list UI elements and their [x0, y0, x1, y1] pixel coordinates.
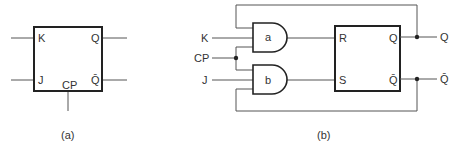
k-input-label: K — [201, 32, 209, 44]
j-input-label: J — [202, 74, 208, 86]
figure-a: K J CP Q Q̄ (a) — [11, 27, 127, 141]
caption-b: (b) — [317, 129, 330, 141]
r-label: R — [339, 32, 347, 44]
cp-split-wire — [236, 47, 253, 70]
figure-b: a b R S Q Q̄ K CP J Q Q̄ (b) — [194, 5, 449, 141]
jk-flipflop-diagram: K J CP Q Q̄ (a) a b R S Q Q̄ — [0, 0, 459, 154]
j-label: J — [38, 74, 44, 86]
caption-a: (a) — [61, 129, 74, 141]
q-junction-dot — [415, 35, 419, 39]
q-output-label: Q — [440, 31, 449, 43]
q-label: Q — [91, 32, 100, 44]
cp-label: CP — [62, 79, 77, 91]
qbar-label: Q̄ — [91, 74, 100, 86]
k-label: K — [38, 32, 46, 44]
ff-qbar-label: Q̄ — [389, 74, 398, 86]
ff-q-label: Q — [389, 32, 398, 44]
qbar-junction-dot — [415, 77, 419, 81]
gate-b-label: b — [265, 74, 271, 86]
gate-a-label: a — [265, 31, 272, 43]
qbar-output-label: Q̄ — [440, 73, 449, 85]
cp-input-label: CP — [194, 52, 209, 64]
cp-junction-dot — [234, 56, 238, 60]
s-label: S — [339, 74, 346, 86]
